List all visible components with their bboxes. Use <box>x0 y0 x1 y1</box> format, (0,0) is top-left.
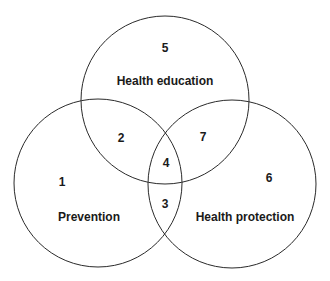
region-2-number: 2 <box>118 131 125 145</box>
venn-diagram: 5 Health education 2 7 4 1 6 3 Preventio… <box>0 0 330 281</box>
region-4-number: 4 <box>163 156 170 170</box>
region-7-number: 7 <box>200 130 207 144</box>
region-5-number: 5 <box>162 41 169 55</box>
circle-prevention <box>14 99 182 267</box>
prevention-label: Prevention <box>58 210 120 224</box>
region-3-number: 3 <box>162 197 169 211</box>
health-protection-label: Health protection <box>196 210 295 224</box>
region-6-number: 6 <box>266 171 273 185</box>
region-1-number: 1 <box>59 175 66 189</box>
venn-svg: 5 Health education 2 7 4 1 6 3 Preventio… <box>0 0 330 281</box>
health-education-label: Health education <box>117 74 214 88</box>
